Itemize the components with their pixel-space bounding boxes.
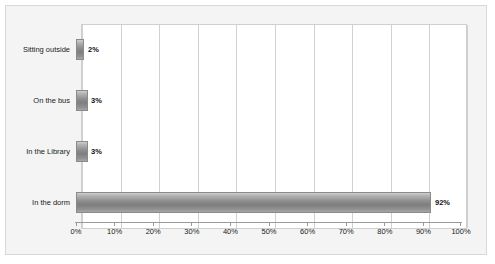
table-row: In the Library 3%: [0, 141, 495, 162]
bar-value-on-the-bus: 3%: [91, 90, 102, 111]
x-tick-50: [269, 223, 270, 226]
x-tick-40: [230, 223, 231, 226]
x-tick-100: [460, 223, 461, 226]
x-tick-label-90: 90%: [416, 227, 431, 236]
x-tick-20: [153, 223, 154, 226]
bar-sitting-outside[interactable]: [76, 39, 84, 60]
x-tick-label-50: 50%: [261, 227, 276, 236]
x-tick-label-30: 30%: [184, 227, 199, 236]
bar-in-the-library[interactable]: [76, 141, 88, 162]
x-tick-90: [423, 223, 424, 226]
bar-value-in-the-dorm: 92%: [435, 192, 450, 213]
category-label-in-the-library: In the Library: [0, 141, 70, 162]
x-tick-label-10: 10%: [107, 227, 122, 236]
x-tick-label-80: 80%: [377, 227, 392, 236]
category-label-on-the-bus: On the bus: [0, 90, 70, 111]
category-label-sitting-outside: Sitting outside: [0, 39, 70, 60]
bar-on-the-bus[interactable]: [76, 90, 88, 111]
x-tick-label-100: 100%: [451, 227, 470, 236]
x-tick-60: [307, 223, 308, 226]
table-row: In the dorm 92%: [0, 192, 495, 213]
category-label-in-the-dorm: In the dorm: [0, 192, 70, 213]
x-tick-label-0: 0%: [71, 227, 82, 236]
x-tick-label-70: 70%: [339, 227, 354, 236]
bar-in-the-dorm[interactable]: [76, 192, 431, 213]
x-tick-10: [114, 223, 115, 226]
x-tick-label-40: 40%: [223, 227, 238, 236]
x-tick-label-20: 20%: [146, 227, 161, 236]
x-tick-30: [191, 223, 192, 226]
bar-rows: Sitting outside 2% On the bus 3% In the …: [0, 18, 495, 223]
x-tick-0: [76, 223, 77, 226]
x-tick-80: [384, 223, 385, 226]
bar-value-in-the-library: 3%: [91, 141, 102, 162]
x-tick-label-60: 60%: [300, 227, 315, 236]
bar-value-sitting-outside: 2%: [88, 39, 99, 60]
table-row: Sitting outside 2%: [0, 39, 495, 60]
x-tick-70: [346, 223, 347, 226]
table-row: On the bus 3%: [0, 90, 495, 111]
